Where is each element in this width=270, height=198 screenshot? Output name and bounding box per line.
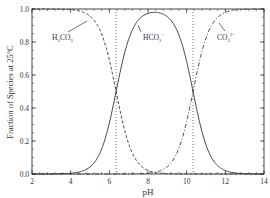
y-tick-label: 0.2 xyxy=(20,137,30,146)
y-tick-label: 0.6 xyxy=(20,71,30,80)
h2co3-leader-line xyxy=(68,21,87,32)
co3-leader-line xyxy=(219,23,225,31)
species-fraction-chart: 24681012140.00.20.40.60.81.0 pH Fraction… xyxy=(0,0,270,198)
h2co3-label: H2CO3 xyxy=(52,33,73,43)
y-tick-label: 0.8 xyxy=(20,38,30,47)
hco3-leader-line xyxy=(138,25,141,32)
x-tick-label: 14 xyxy=(260,177,268,186)
x-tick-label: 12 xyxy=(222,177,230,186)
y-tick-label: 0.4 xyxy=(20,104,30,113)
x-tick-label: 6 xyxy=(107,177,111,186)
x-tick-label: 10 xyxy=(183,177,191,186)
y-tick-label: 1.0 xyxy=(20,5,30,14)
y-tick-label: 0.0 xyxy=(20,170,30,179)
x-tick-label: 4 xyxy=(69,177,73,186)
x-tick-label: 8 xyxy=(146,177,150,186)
x-axis-label: pH xyxy=(143,187,155,197)
hco3-label: HCO3− xyxy=(143,32,164,43)
co3-label: CO32− xyxy=(217,32,235,43)
y-axis-label: Fraction of Species at 25°C xyxy=(5,45,15,139)
x-tick-label: 2 xyxy=(30,177,34,186)
